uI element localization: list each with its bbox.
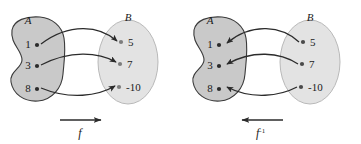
- element-dot-a-0: [35, 43, 39, 47]
- element-label-b-2: -10: [126, 81, 141, 93]
- element-label-b-inverse-1: 7: [309, 58, 315, 70]
- element-label-b-1: 7: [127, 58, 133, 70]
- element-dot-a-inverse-1: [217, 64, 221, 68]
- element-dot-a-inverse-2: [217, 87, 221, 91]
- element-label-a-1: 3: [25, 59, 31, 71]
- element-dot-b-2: [117, 85, 121, 89]
- element-dot-b-inverse-0: [301, 40, 305, 44]
- element-label-b-inverse-0: 5: [310, 36, 316, 48]
- map-label-inverse-exponent: -1: [259, 127, 265, 135]
- element-dot-b-0: [119, 40, 123, 44]
- element-label-a-inverse-1: 3: [207, 59, 213, 71]
- element-dot-a-1: [35, 64, 39, 68]
- set-b-label-inverse: B: [307, 11, 314, 23]
- element-dot-b-1: [118, 62, 122, 66]
- function-inverse-diagram: A B 1 3 8 5 7 -10 f A B 1 3 8: [0, 0, 361, 144]
- element-label-a-inverse-2: 8: [207, 82, 213, 94]
- set-b-label: B: [125, 11, 132, 23]
- element-label-a-inverse-0: 1: [207, 38, 213, 50]
- element-label-a-2: 8: [25, 82, 31, 94]
- element-dot-a-2: [35, 87, 39, 91]
- element-dot-b-inverse-2: [299, 85, 303, 89]
- element-label-b-0: 5: [128, 36, 134, 48]
- element-label-a-0: 1: [25, 38, 31, 50]
- set-a-label: A: [24, 14, 32, 26]
- element-dot-b-inverse-1: [300, 62, 304, 66]
- element-label-b-inverse-2: -10: [308, 81, 323, 93]
- element-dot-a-inverse-0: [217, 43, 221, 47]
- set-a-label-inverse: A: [206, 14, 214, 26]
